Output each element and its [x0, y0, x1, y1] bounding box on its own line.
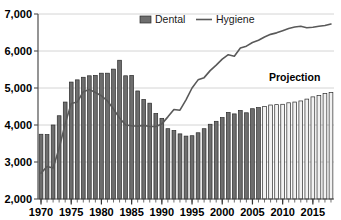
- x-axis-tick-label: 2005: [240, 206, 264, 218]
- bar-historical: [226, 112, 230, 199]
- annotation-projection: Projection: [269, 71, 320, 83]
- bar-historical: [202, 129, 206, 199]
- bar-historical: [100, 73, 104, 199]
- bar-historical: [166, 129, 170, 199]
- bar-historical: [190, 136, 194, 199]
- x-axis-tick-label: 1970: [29, 206, 53, 218]
- y-axis-tick-label: 3,000: [4, 156, 32, 168]
- y-axis-tick-label: 2,000: [4, 193, 32, 205]
- bar-historical: [214, 121, 218, 199]
- bar-historical: [124, 76, 128, 199]
- legend-label-hygiene: Hygiene: [216, 13, 255, 25]
- bar-historical: [112, 69, 116, 199]
- bar-historical: [257, 108, 261, 199]
- bar-historical: [63, 102, 67, 199]
- bar-projection: [311, 97, 315, 199]
- bar-historical: [39, 134, 43, 199]
- x-axis-tick-label: 2010: [270, 206, 294, 218]
- x-axis-ticks: 1970197519801985199019952000200520102015: [29, 199, 325, 218]
- chart-container: 2,0003,0004,0005,0006,0007,0001970197519…: [0, 0, 341, 220]
- bar-projection: [293, 102, 297, 199]
- bar-historical: [232, 114, 236, 199]
- x-axis-tick-label: 1985: [119, 206, 143, 218]
- bar-historical: [184, 136, 188, 199]
- bar-historical: [178, 134, 182, 199]
- bar-projection: [287, 103, 291, 199]
- bar-historical: [106, 73, 110, 199]
- bar-projection: [263, 107, 267, 200]
- bar-projection: [275, 105, 279, 199]
- bar-historical: [196, 133, 200, 199]
- bar-projection: [329, 92, 333, 199]
- bar-projection: [317, 95, 321, 199]
- legend-swatch-dental: [140, 16, 151, 23]
- y-axis-tick-label: 6,000: [4, 45, 32, 57]
- bar-historical: [75, 80, 79, 199]
- bar-projection: [305, 99, 309, 199]
- y-axis-tick-label: 4,000: [4, 119, 32, 131]
- x-axis-tick-label: 2000: [210, 206, 234, 218]
- y-axis-tick-label: 5,000: [4, 82, 32, 94]
- bar-projection: [299, 101, 303, 199]
- bar-projection: [323, 94, 327, 199]
- bar-historical: [142, 99, 146, 199]
- bar-historical: [251, 109, 255, 199]
- bar-projection: [269, 105, 273, 199]
- quarterly-chart: 2,0003,0004,0005,0006,0007,0001970197519…: [0, 0, 341, 220]
- bar-historical: [172, 131, 176, 199]
- legend-label-dental: Dental: [155, 13, 185, 25]
- y-axis-tick-label: 7,000: [4, 8, 32, 20]
- bar-historical: [160, 118, 164, 199]
- bar-historical: [245, 113, 249, 199]
- y-axis-ticks: 2,0003,0004,0005,0006,0007,000: [4, 8, 38, 205]
- x-axis-tick-label: 1995: [180, 206, 204, 218]
- x-axis-tick-label: 2015: [301, 206, 325, 218]
- bar-historical: [130, 75, 134, 199]
- x-axis-tick-label: 1990: [150, 206, 174, 218]
- bar-historical: [220, 118, 224, 199]
- bar-historical: [87, 76, 91, 199]
- bar-historical: [208, 124, 212, 199]
- bar-historical: [136, 91, 140, 199]
- bar-historical: [118, 60, 122, 199]
- x-axis-tick-label: 1975: [59, 206, 83, 218]
- bar-projection: [281, 104, 285, 199]
- bar-historical: [238, 111, 242, 199]
- bar-historical: [69, 82, 73, 199]
- bar-historical: [57, 116, 61, 199]
- x-axis-tick-label: 1980: [89, 206, 113, 218]
- bar-historical: [148, 103, 152, 199]
